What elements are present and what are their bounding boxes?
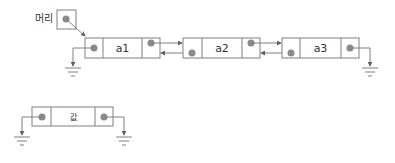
node-value: a2: [215, 42, 229, 55]
ground-icon: [14, 137, 30, 145]
node-a1: a1: [85, 38, 160, 58]
ground-icon: [116, 137, 132, 145]
node-a3: a3: [282, 38, 359, 58]
node-value: a3: [314, 42, 328, 55]
node-value: a1: [116, 42, 130, 55]
ground-icon: [362, 68, 378, 76]
single-node: 값: [32, 107, 113, 126]
head-pointer: 머리: [35, 10, 85, 36]
prev-pointer-dot: [288, 50, 295, 57]
prev-pointer-dot: [189, 50, 196, 57]
node-value: 값: [70, 112, 78, 122]
ground-icon: [65, 68, 81, 76]
linked-list-diagram: 머리 a1 a2 a3: [0, 0, 395, 163]
head-label: 머리: [35, 13, 53, 24]
node-a2: a2: [183, 38, 260, 58]
